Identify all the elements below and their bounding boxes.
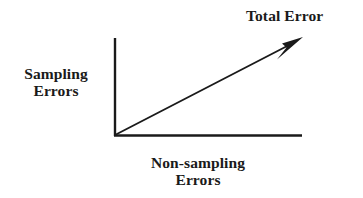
label-nonsampling-errors-line-2: Errors bbox=[136, 172, 260, 189]
diagram-canvas: Total Error Sampling Errors Non-sampling… bbox=[0, 0, 363, 198]
label-sampling-errors: Sampling Errors bbox=[6, 66, 106, 99]
label-total-error: Total Error bbox=[246, 8, 323, 25]
label-total-error-text: Total Error bbox=[246, 8, 323, 25]
label-nonsampling-errors-line-1: Non-sampling bbox=[136, 155, 260, 172]
label-nonsampling-errors: Non-sampling Errors bbox=[136, 155, 260, 188]
label-sampling-errors-line-1: Sampling bbox=[6, 66, 106, 83]
total-error-line bbox=[115, 43, 293, 135]
label-sampling-errors-line-2: Errors bbox=[6, 83, 106, 100]
